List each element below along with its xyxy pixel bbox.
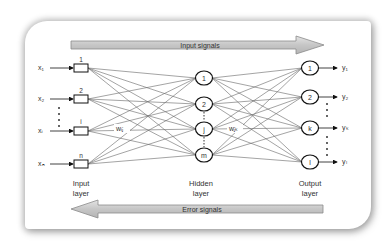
- hidden-node-label: 2: [202, 101, 206, 108]
- input-node-label: n: [79, 152, 83, 159]
- input-var: x₁: [38, 64, 45, 71]
- input-var: x₂: [38, 95, 45, 102]
- hidden-node-label: 1: [202, 75, 206, 82]
- output-node: 1 y₁: [302, 61, 349, 75]
- input-layer-label-2: layer: [73, 189, 90, 198]
- hidden-node: 1: [196, 71, 213, 85]
- output-ellipsis-lower: [326, 136, 328, 156]
- input-ellipsis: [58, 107, 60, 127]
- output-node: 2 y₂: [302, 90, 349, 104]
- layer-labels: Input layer Hidden layer Output layer: [73, 179, 323, 198]
- output-node-label: 2: [308, 94, 312, 101]
- output-layer-label-1: Output: [299, 179, 322, 188]
- input-signals-label: Input signals: [180, 42, 220, 50]
- input-node-label: i: [80, 118, 81, 125]
- hidden-node-label: j: [202, 126, 205, 134]
- output-node-label: k: [308, 125, 312, 132]
- output-layer-label-2: layer: [302, 189, 319, 198]
- weight-ij-label: wᵢⱼ: [115, 125, 123, 132]
- hidden-node: j: [196, 122, 213, 136]
- weight-jk-label: wⱼₖ: [228, 125, 238, 132]
- neural-network-diagram: Input signals Error signals x₁: [0, 0, 391, 244]
- input-node-label: 2: [79, 87, 83, 94]
- input-node: xₙ n: [38, 152, 88, 168]
- hidden-node: 2: [196, 97, 213, 111]
- hidden-node: m: [196, 148, 213, 162]
- input-node: xᵢ i: [38, 118, 88, 135]
- input-hidden-connections: [88, 68, 196, 164]
- input-layer-label-1: Input: [73, 179, 91, 188]
- output-node: k yₖ: [302, 121, 349, 135]
- output-var: y₁: [342, 64, 349, 72]
- input-signals-arrow: Input signals: [71, 36, 324, 54]
- input-layer: x₁ 1 x₂ 2 xᵢ i xₙ: [38, 56, 88, 168]
- input-node: x₁ 1: [38, 56, 88, 72]
- output-var: yₗ: [342, 158, 347, 166]
- hidden-layer: 1 2 j m: [196, 71, 213, 162]
- hidden-node-label: m: [201, 152, 207, 159]
- output-layer: 1 y₁ 2 y₂ k yₖ: [302, 61, 349, 169]
- error-signals-label: Error signals: [182, 206, 222, 214]
- output-ellipsis-upper: [326, 103, 328, 117]
- output-var: yₖ: [342, 124, 349, 132]
- input-node-label: 1: [79, 56, 83, 63]
- error-signals-arrow: Error signals: [71, 200, 323, 218]
- output-node: l yₗ: [302, 155, 347, 169]
- output-var: y₂: [342, 93, 349, 101]
- input-var: xᵢ: [38, 127, 43, 134]
- input-var: xₙ: [38, 160, 45, 167]
- input-node: x₂ 2: [38, 87, 88, 103]
- hidden-output-connections: [212, 68, 302, 162]
- hidden-layer-label-2: layer: [193, 189, 210, 198]
- output-node-label: 1: [308, 65, 312, 72]
- diagram-stage: Input signals Error signals x₁: [0, 0, 391, 244]
- hidden-layer-label-1: Hidden: [189, 179, 213, 188]
